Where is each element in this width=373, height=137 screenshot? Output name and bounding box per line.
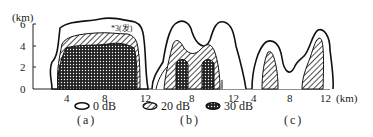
legend-30db-label: 30 dB [224,100,253,112]
panel-b-contours [152,21,246,89]
panel-a-caption: (a) [77,114,96,126]
legend-20db-label: 20 dB [161,100,190,112]
panel-a-30db-contour [58,43,137,89]
panel-c-caption: (c) [284,114,303,126]
y-axis [33,24,36,89]
x-axis-unit-label: (km) [336,93,357,104]
y-tick-0: 0 [20,84,26,95]
y-tick-4: 4 [20,41,26,52]
legend-30db-symbol [206,103,220,110]
y-tick-6: 6 [20,19,26,30]
panel-a-x-tick-12: 12 [140,93,151,104]
legend-0db-label: 0 dB [93,100,116,112]
legend-0db-symbol [75,103,89,109]
panel-b-30db-right [202,60,214,90]
panel-b-30db-left [176,60,188,90]
panel-c-x-tick-8: 8 [287,93,293,104]
panel-a-x-tick-4: 4 [64,93,70,104]
annotation-label: *3(发) [111,25,132,33]
panel-c-contours [252,30,333,89]
y-tick-2: 2 [20,62,26,73]
panel-a-contours [50,18,148,89]
panel-b-caption: (b) [180,114,200,126]
panel-c-x-tick-12: 12 [320,93,331,104]
